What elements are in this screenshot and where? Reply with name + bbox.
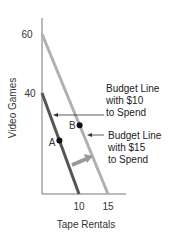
x-tick-15: 15 xyxy=(102,201,114,212)
x-axis-label: Tape Rentals xyxy=(57,219,115,230)
y-tick-60: 60 xyxy=(21,29,33,40)
annotation-budget-10: Budget Line with $10 to Spend xyxy=(105,83,162,118)
point-b xyxy=(77,122,83,128)
y-axis-label: Video Games xyxy=(7,78,18,138)
point-b-label: B xyxy=(69,120,76,131)
budget-line-15 xyxy=(42,34,108,194)
point-a xyxy=(56,137,62,143)
shift-arrow-icon xyxy=(72,154,93,165)
annotation-arrow-10 xyxy=(53,113,104,117)
annotation-arrow-15 xyxy=(87,133,104,137)
chart: 60 40 10 15 Tape Rentals Video Games A B… xyxy=(0,0,177,237)
annotation-budget-15: Budget Line with $15 to Spend xyxy=(107,130,164,165)
point-a-label: A xyxy=(49,137,56,148)
y-tick-40: 40 xyxy=(24,88,36,99)
x-tick-10: 10 xyxy=(73,201,85,212)
